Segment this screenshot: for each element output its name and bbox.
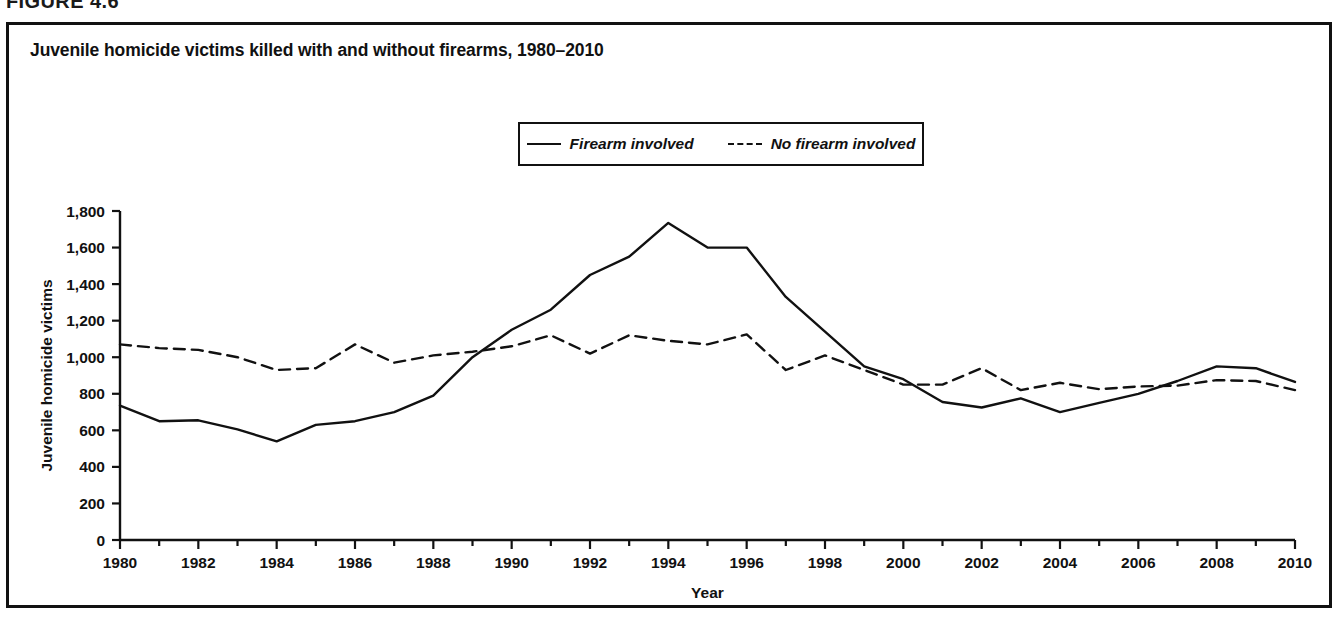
plot-area: 02004006008001,0001,2001,4001,6001,80019… [0,0,1340,621]
x-axis-tick-label: 1998 [808,554,843,571]
y-axis-tick-label: 800 [79,385,105,402]
y-axis-tick-label: 200 [79,495,105,512]
series-line-firearm-involved [120,223,1295,441]
x-axis-tick-label: 2008 [1199,554,1234,571]
x-axis-tick-label: 1992 [573,554,607,571]
y-axis-title: Juvenile homicide victims [38,279,55,471]
x-axis-tick-label: 1994 [651,554,686,571]
series-line-no-firearm-involved [120,334,1295,390]
y-axis-tick-label: 1,400 [66,276,105,293]
y-axis-tick-label: 1,200 [66,312,105,329]
y-axis-tick-label: 600 [79,422,105,439]
axis-layer [112,211,1295,549]
x-axis-tick-label: 2010 [1278,554,1312,571]
y-axis-tick-label: 1,000 [66,349,105,366]
x-axis-tick-label: 1988 [416,554,451,571]
x-axis-tick-label: 1996 [729,554,764,571]
x-axis-tick-label: 2000 [886,554,920,571]
x-axis-tick-label: 1986 [338,554,373,571]
label-layer: 02004006008001,0001,2001,4001,6001,80019… [38,203,1312,602]
x-axis-tick-label: 1990 [494,554,528,571]
x-axis-tick-label: 1984 [259,554,294,571]
series-layer [120,223,1295,441]
y-axis-tick-label: 1,800 [66,203,105,220]
x-axis-title: Year [691,584,724,601]
x-axis-tick-label: 2006 [1121,554,1156,571]
figure-root: FIGURE 4.6 Juvenile homicide victims kil… [0,0,1340,621]
chart-svg: 02004006008001,0001,2001,4001,6001,80019… [0,0,1340,621]
x-axis-tick-label: 1980 [103,554,137,571]
x-axis-tick-label: 1982 [181,554,215,571]
y-axis-tick-label: 0 [96,532,105,549]
x-axis-tick-label: 2002 [964,554,998,571]
x-axis-tick-label: 2004 [1043,554,1078,571]
y-axis-tick-label: 1,600 [66,239,105,256]
y-axis-tick-label: 400 [79,458,105,475]
